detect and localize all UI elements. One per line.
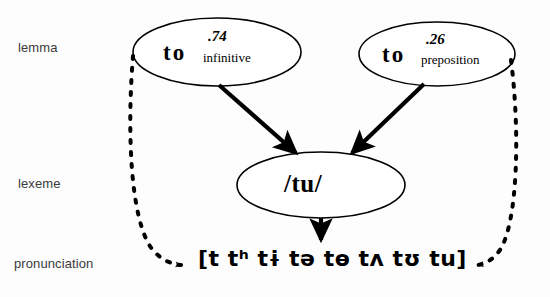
edge-preposition-to-pronunciation bbox=[478, 60, 516, 265]
edge-preposition-to-lexeme bbox=[352, 84, 424, 153]
lemma-infinitive-sense: infinitive bbox=[203, 50, 251, 66]
tier-label-lexeme: lexeme bbox=[18, 176, 61, 191]
edge-infinitive-to-lexeme bbox=[219, 85, 296, 153]
lemma-preposition-word: to bbox=[382, 42, 405, 68]
lemma-preposition-probability: .26 bbox=[426, 31, 445, 48]
edge-infinitive-to-pronunciation bbox=[130, 56, 181, 265]
pronunciation-variants: [t tʰ tɨ tə tɵ tʌ tʊ tu] bbox=[198, 246, 467, 271]
lemma-preposition-sense: preposition bbox=[421, 52, 480, 68]
linguistic-diagram: lemma lexeme pronunciation to .74 infini… bbox=[0, 0, 550, 297]
tier-label-pronunciation: pronunciation bbox=[14, 256, 93, 271]
lemma-infinitive-probability: .74 bbox=[208, 28, 227, 45]
lemma-infinitive-word: to bbox=[163, 40, 186, 66]
tier-label-lemma: lemma bbox=[18, 40, 58, 55]
lexeme-node-label: /tu/ bbox=[284, 170, 322, 198]
